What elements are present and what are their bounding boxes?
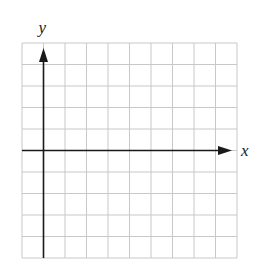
- coordinate-grid: x y: [0, 0, 264, 259]
- x-axis-arrow-icon: [218, 146, 232, 155]
- y-axis-label: y: [37, 18, 47, 37]
- axes: [22, 48, 232, 258]
- x-axis-label: x: [240, 141, 249, 160]
- y-axis-arrow-icon: [39, 48, 48, 62]
